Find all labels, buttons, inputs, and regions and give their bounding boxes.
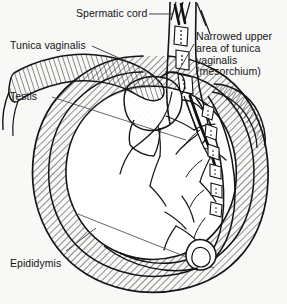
epididymis-tail-outline (186, 239, 216, 270)
label-line-3: vaginalis (196, 54, 237, 66)
label-epididymis: Epididymis (10, 258, 61, 270)
label-narrowed-upper-area-of-tunica-vaginalis: Narrowed upperarea of tunicavaginalis(me… (196, 31, 272, 78)
label-line-2: area of tunica (196, 42, 260, 54)
label-line-1: Narrowed upper (196, 30, 272, 42)
flap-tail-inner (13, 101, 18, 136)
label-testis: Testis (10, 91, 37, 103)
anatomical-figure: Spermatic cord Tunica vaginalis Narrowed… (0, 0, 287, 304)
label-line-4: (mesorchium) (196, 65, 261, 77)
label-spermatic-cord: Spermatic cord (76, 8, 147, 20)
label-tunica-vaginalis: Tunica vaginalis (10, 40, 86, 52)
flap-tail (3, 92, 9, 130)
